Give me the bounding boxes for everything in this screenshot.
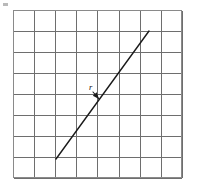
corner-tick-mark (3, 3, 8, 6)
vector-grid-diagram: r (0, 0, 197, 189)
figure-container: r (0, 0, 197, 189)
